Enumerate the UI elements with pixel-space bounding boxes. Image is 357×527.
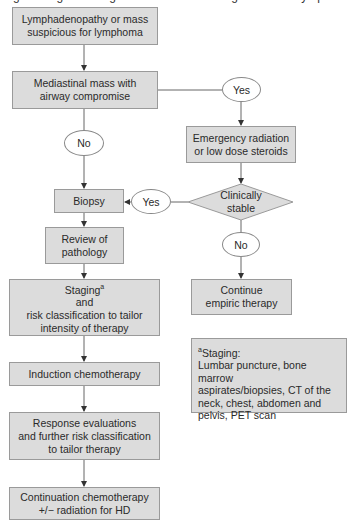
emergency-treatment-box: Emergency radiationor low dose steroids: [186, 126, 296, 163]
footnote-heading: aStaging:: [198, 344, 340, 359]
footnote-heading-text: Staging:: [202, 347, 241, 359]
response-line-3: to tailor therapy: [18, 443, 150, 456]
footnote-line-2: aspirates/biopsies, CT of the: [198, 384, 340, 397]
continue-line-1: Continue: [206, 284, 278, 297]
review-line-2: pathology: [61, 246, 107, 259]
footnote-line-3: neck, chest, abdomen and: [198, 397, 340, 410]
no-oval-airway: No: [64, 130, 104, 156]
review-pathology-box: Review ofpathology: [45, 227, 124, 264]
yes-oval-airway: Yes: [222, 77, 261, 102]
continue-empiric-box: Continueempiric therapy: [191, 279, 292, 315]
staging-box: Staginga and risk classification to tail…: [9, 279, 160, 336]
start-line-1: Lymphadenopathy or mass: [22, 13, 148, 26]
continue-line-2: empiric therapy: [206, 297, 278, 310]
biopsy-box: Biopsy: [54, 189, 124, 213]
emergency-line-1: Emergency radiation: [193, 132, 289, 145]
staging-line-1: Staginga: [26, 280, 142, 297]
continuation-line-1: Continuation chemotherapy: [20, 491, 148, 504]
staging-word: Staging: [65, 283, 101, 295]
response-evaluation-box: Response evaluationsand further risk cla…: [9, 412, 160, 460]
staging-line-3: risk classification to tailor: [26, 309, 142, 322]
staging-footnote-box: aStaging: Lumbar puncture, bone marrow a…: [191, 338, 347, 413]
yes-oval-stable: Yes: [131, 189, 171, 214]
review-line-1: Review of: [61, 233, 107, 246]
stable-line-2: stable: [201, 202, 281, 215]
start-box: Lymphadenopathy or masssuspicious for ly…: [12, 7, 158, 45]
mediastinal-line-1: Mediastinal mass with: [34, 77, 137, 90]
mediastinal-line-2: airway compromise: [34, 90, 137, 103]
start-line-2: suspicious for lymphoma: [22, 26, 148, 39]
continuation-chemotherapy-box: Continuation chemotherapy+/− radiation f…: [9, 487, 160, 520]
induction-chemotherapy-box: Induction chemotherapy: [9, 362, 160, 386]
no-oval-stable: No: [222, 232, 260, 257]
mediastinal-mass-box: Mediastinal mass withairway compromise: [12, 71, 158, 109]
footnote-line-1: Lumbar puncture, bone marrow: [198, 359, 340, 384]
response-line-2: and further risk classification: [18, 430, 150, 443]
footnote-marker: a: [100, 283, 104, 290]
continuation-line-2: +/− radiation for HD: [20, 504, 148, 517]
clinically-stable-label: Clinically stable: [201, 189, 281, 215]
footnote-line-4: pelvis, PET scan: [198, 409, 340, 422]
response-line-1: Response evaluations: [18, 417, 150, 430]
emergency-line-2: or low dose steroids: [193, 145, 289, 158]
staging-line-4: intensity of therapy: [26, 322, 142, 335]
stable-line-1: Clinically: [201, 189, 281, 202]
staging-line-2: and: [26, 296, 142, 309]
